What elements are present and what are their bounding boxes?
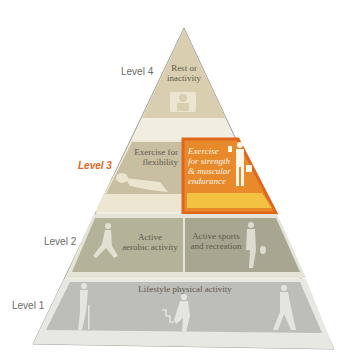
person-at-computer-icon (170, 92, 196, 112)
level-2-label: Level 2 (44, 236, 76, 247)
level-3-label: Level 3 (78, 160, 112, 171)
rest-inactivity-label: Rest or inactivity (166, 63, 202, 83)
lifestyle-activity-label: Lifestyle physical activity (135, 284, 235, 294)
flexibility-label: Exercise for flexibility (128, 147, 178, 167)
level-1-label: Level 1 (12, 300, 44, 311)
level-4-label: Level 4 (121, 66, 153, 77)
strength-endurance-label: Exercise for strength & muscular enduran… (188, 146, 231, 186)
aerobic-activity-label: Active aerobic activity (118, 232, 182, 252)
sports-recreation-label: Active sports and recreation (188, 231, 244, 251)
pyramid-diagram (0, 0, 346, 360)
strength-cell-base (187, 193, 272, 208)
